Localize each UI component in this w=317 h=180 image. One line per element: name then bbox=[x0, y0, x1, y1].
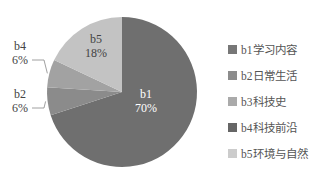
pie-slices bbox=[47, 17, 197, 167]
slice-pct-b1: 70% bbox=[135, 101, 157, 115]
legend-item-b5: b5环境与自然 bbox=[228, 140, 308, 166]
legend-swatch bbox=[228, 71, 237, 80]
slice-pct-b2: 6% bbox=[12, 101, 28, 115]
legend: b1学习内容 b2日常生活 b3科技史 b4科技前沿 b5环境与自然 bbox=[228, 36, 308, 166]
slice-label-b5: b5 bbox=[90, 32, 102, 46]
legend-item-b1: b1学习内容 bbox=[228, 36, 308, 62]
legend-label: b4科技前沿 bbox=[241, 119, 297, 135]
legend-label: b2日常生活 bbox=[241, 67, 297, 83]
slice-pct-b4: 6% bbox=[12, 53, 28, 67]
legend-swatch bbox=[228, 149, 237, 158]
leader-line-b2 bbox=[32, 101, 46, 108]
legend-label: b3科技史 bbox=[241, 93, 286, 109]
legend-swatch bbox=[228, 123, 237, 132]
legend-swatch bbox=[228, 97, 237, 106]
slice-pct-b5: 18% bbox=[85, 46, 107, 60]
legend-swatch bbox=[228, 45, 237, 54]
legend-item-b2: b2日常生活 bbox=[228, 62, 308, 88]
legend-label: b5环境与自然 bbox=[241, 145, 308, 161]
legend-item-b3: b3科技史 bbox=[228, 88, 308, 114]
legend-label: b1学习内容 bbox=[241, 41, 297, 57]
legend-item-b4: b4科技前沿 bbox=[228, 114, 308, 140]
leader-line-b4 bbox=[32, 60, 47, 73]
slice-label-b2: b2 bbox=[14, 87, 26, 101]
slice-label-b4: b4 bbox=[14, 39, 26, 53]
slice-label-b1: b1 bbox=[140, 87, 152, 101]
